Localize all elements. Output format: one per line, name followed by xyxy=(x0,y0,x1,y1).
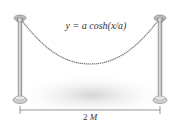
dimension-number: 2 xyxy=(83,112,88,122)
ground-shadow xyxy=(14,73,170,117)
span-dimension-label: 2 M xyxy=(72,112,108,122)
dimension-variable: M xyxy=(90,112,98,122)
catenary-formula: y = a cosh(x/a) xyxy=(56,20,136,31)
catenary-diagram: y = a cosh(x/a) 2 M xyxy=(0,0,179,128)
